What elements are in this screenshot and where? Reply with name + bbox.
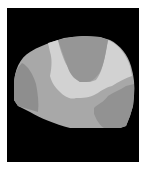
segmentation-image: [0, 0, 151, 170]
